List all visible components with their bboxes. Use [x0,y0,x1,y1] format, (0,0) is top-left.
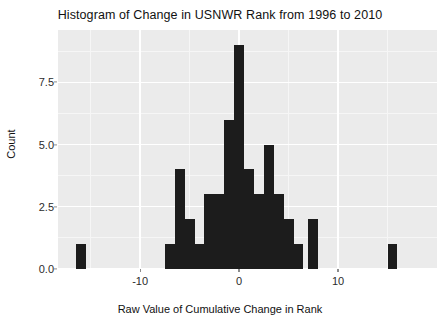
y-tick-mark [54,144,57,145]
histogram-bar [224,120,234,269]
y-axis-label: Count [5,114,17,174]
histogram-figure: Histogram of Change in USNWR Rank from 1… [0,0,440,325]
histogram-bar [388,244,398,269]
y-tick-label-7.5: 7.5 [10,76,54,88]
x-tick-label--10: -10 [110,275,170,287]
gridline-x--10 [139,30,140,269]
page-title: Histogram of Change in USNWR Rank from 1… [0,8,440,22]
y-tick-mark [54,206,57,207]
x-tick-mark [337,269,338,272]
x-tick-label-10: 10 [308,275,368,287]
histogram-bar [76,244,86,269]
x-axis-label: Raw Value of Cumulative Change in Rank [0,303,440,315]
histogram-bar [274,194,284,269]
histogram-bar [294,244,304,269]
histogram-bar [214,194,224,269]
histogram-bar [254,194,264,269]
histogram-bar [234,45,244,269]
histogram-bar [175,169,185,269]
gridline-y-5.0 [58,144,437,145]
histogram-bar [244,169,254,269]
gridline-y-7.5 [58,82,437,83]
y-tick-mark [54,268,57,269]
gridline-minor-x [387,30,388,269]
histogram-bar [165,244,175,269]
gridline-minor-y [58,113,437,114]
y-tick-label-2.5: 2.5 [10,201,54,213]
x-tick-mark [140,269,141,272]
plot-panel [58,30,437,269]
gridline-minor-y [58,51,437,52]
histogram-bar [264,145,274,269]
x-tick-mark [238,269,239,272]
gridline-minor-x [90,30,91,269]
histogram-bar [284,219,294,269]
histogram-bar [204,194,214,269]
x-tick-label-0: 0 [209,275,269,287]
gridline-x-10 [337,30,338,269]
histogram-bar [308,219,318,269]
y-tick-label-0.0: 0.0 [10,263,54,275]
histogram-bar [185,219,195,269]
histogram-bar [195,244,205,269]
y-tick-mark [54,82,57,83]
